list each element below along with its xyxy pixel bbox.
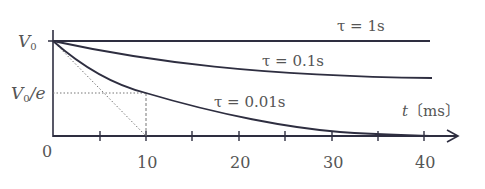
x-tick-label-20: 20: [230, 153, 250, 172]
x-axis-label: t〔ms〕: [402, 102, 460, 120]
label-tau-0.01s: τ = 0.01s: [214, 93, 286, 111]
x-tick-label-10: 10: [137, 153, 157, 172]
origin-label: 0: [42, 142, 52, 161]
label-tau-1s: τ = 1s: [337, 17, 385, 35]
label-tau-0.1s: τ = 0.1s: [262, 52, 324, 70]
curve-tau-0.01s: [53, 41, 430, 136]
curve-tau-0.1s: [53, 41, 432, 78]
v0e-label: V0/e: [11, 83, 45, 104]
v0-label: V0: [18, 31, 37, 52]
decay-chart: V0 V0/e 0 10 20 30 40 t〔ms〕 τ = 1s τ = 0…: [0, 0, 485, 189]
x-tick-label-30: 30: [323, 153, 343, 172]
x-tick-label-40: 40: [415, 153, 435, 172]
